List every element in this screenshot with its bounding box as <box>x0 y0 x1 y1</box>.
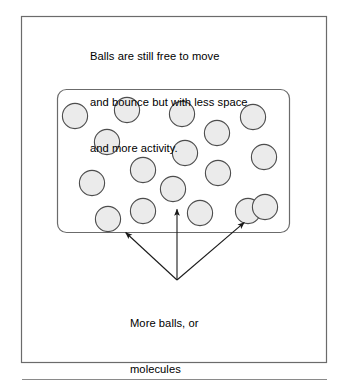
ball <box>187 200 212 225</box>
figure-stage: Balls are still free to move and bounce … <box>0 0 347 386</box>
ball <box>62 103 87 128</box>
caption-line-2: molecules <box>130 362 213 377</box>
heading-text: Balls are still free to move and bounce … <box>90 19 248 186</box>
arrow-left-line <box>126 232 177 280</box>
ball <box>252 194 277 219</box>
heading-line-2: and bounce but with less space <box>90 95 248 110</box>
heading-line-1: Balls are still free to move <box>90 49 248 64</box>
ball <box>95 206 120 231</box>
caption-line-1: More balls, or <box>130 316 213 331</box>
arrow-right-line <box>177 222 244 280</box>
ball <box>251 144 276 169</box>
heading-line-3: and more activity. <box>90 141 248 156</box>
ball <box>130 198 155 223</box>
caption-text: More balls, or molecules compressed into… <box>130 286 213 386</box>
